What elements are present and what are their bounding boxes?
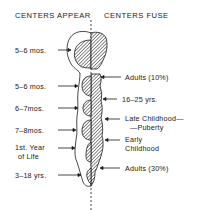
label-text: of Life bbox=[15, 152, 45, 161]
label-fuse-manubrium: Adults (10%) bbox=[125, 73, 169, 82]
label-text: Early bbox=[125, 135, 159, 144]
label-fuse-xiphoid: Adults (30%) bbox=[125, 164, 169, 173]
label-appear-xiphoid: 3–18 yrs. bbox=[15, 171, 46, 180]
label-appear-manubrium: 5–6 mos. bbox=[15, 46, 46, 55]
body-right-strip bbox=[91, 74, 103, 186]
label-appear-segment-4: 1st. Yearof Life bbox=[15, 143, 45, 161]
manubrium-right bbox=[91, 32, 107, 69]
label-text: 7–8mos. bbox=[15, 126, 44, 135]
label-text: Childhood bbox=[125, 144, 159, 153]
label-appear-segment-3: 7–8mos. bbox=[15, 126, 44, 135]
label-fuse-segment-1: 16–25 yrs. bbox=[122, 95, 158, 104]
label-text: 3–18 yrs. bbox=[15, 171, 46, 180]
label-appear-segment-2: 6–7mos. bbox=[15, 104, 44, 113]
xiphoid-center bbox=[87, 168, 91, 184]
body-segment-2 bbox=[83, 100, 91, 116]
label-text: 5–6 mos. bbox=[15, 46, 46, 55]
body-segment-1 bbox=[82, 76, 91, 96]
manubrium-left-center bbox=[74, 40, 91, 68]
label-text: Late Childhood— bbox=[125, 114, 184, 123]
ossification-diagram: CENTERS APPEAR CENTERS FUSE bbox=[0, 0, 201, 210]
label-text: Adults (30%) bbox=[125, 164, 169, 173]
label-text: 5–6 mos. bbox=[15, 82, 46, 91]
label-text: 6–7mos. bbox=[15, 104, 44, 113]
label-fuse-segment-3: EarlyChildhood bbox=[125, 135, 159, 153]
label-text: 16–25 yrs. bbox=[122, 95, 158, 104]
label-text: Adults (10%) bbox=[125, 73, 169, 82]
body-segment-3 bbox=[82, 120, 91, 140]
label-fuse-segment-2: Late Childhood——Puberty bbox=[125, 114, 184, 132]
body-segment-4 bbox=[86, 142, 91, 162]
label-text: 1st. Year bbox=[15, 143, 45, 152]
label-text: —Puberty bbox=[125, 123, 184, 132]
right-arrows bbox=[100, 76, 121, 170]
label-appear-segment-1: 5–6 mos. bbox=[15, 82, 46, 91]
